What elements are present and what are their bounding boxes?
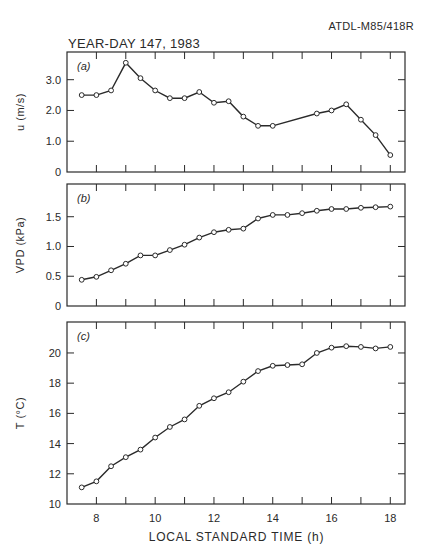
- panel-a: 01.02.03.0u (m/s)(a): [14, 52, 405, 178]
- data-point-marker: [344, 344, 349, 349]
- data-point-marker: [79, 93, 84, 98]
- y-tick-label: 1.0: [46, 135, 61, 147]
- y-tick-label: 1.5: [46, 211, 61, 223]
- data-line: [82, 63, 391, 155]
- data-point-marker: [270, 363, 275, 368]
- data-point-marker: [388, 345, 393, 350]
- plot-frame: [67, 184, 405, 306]
- panel-label: (a): [77, 60, 91, 72]
- data-point-marker: [256, 369, 261, 374]
- data-point-marker: [94, 479, 99, 484]
- data-point-marker: [314, 111, 319, 116]
- data-point-marker: [373, 346, 378, 351]
- data-point-marker: [300, 211, 305, 216]
- y-tick-label: 0: [55, 300, 61, 312]
- data-point-marker: [167, 96, 172, 101]
- data-point-marker: [79, 485, 84, 490]
- data-point-marker: [153, 88, 158, 93]
- data-point-marker: [226, 227, 231, 232]
- data-point-marker: [373, 133, 378, 138]
- data-point-marker: [197, 403, 202, 408]
- y-tick-label: 16: [49, 407, 61, 419]
- data-point-marker: [256, 216, 261, 221]
- data-point-marker: [270, 213, 275, 218]
- panel-label: (c): [77, 330, 90, 342]
- x-tick-label: 18: [384, 512, 396, 524]
- data-point-marker: [388, 153, 393, 158]
- data-point-marker: [285, 363, 290, 368]
- y-tick-label: 10: [49, 498, 61, 510]
- data-point-marker: [109, 88, 114, 93]
- data-point-marker: [300, 362, 305, 367]
- data-point-marker: [212, 100, 217, 105]
- data-point-marker: [167, 248, 172, 253]
- y-tick-label: 18: [49, 377, 61, 389]
- y-tick-label: 14: [49, 438, 61, 450]
- y-tick-label: 3.0: [46, 74, 61, 86]
- y-tick-label: 12: [49, 468, 61, 480]
- data-point-marker: [329, 345, 334, 350]
- data-point-marker: [270, 123, 275, 128]
- panel-label: (b): [77, 192, 91, 204]
- y-axis-label: VPD (kPa): [14, 217, 26, 273]
- chart-area: 01.02.03.0u (m/s)(a)00.51.01.5VPD (kPa)(…: [0, 0, 430, 553]
- y-tick-label: 2.0: [46, 104, 61, 116]
- data-point-marker: [197, 90, 202, 95]
- data-point-marker: [314, 208, 319, 213]
- data-point-marker: [226, 99, 231, 104]
- panel-b: 00.51.01.5VPD (kPa)(b): [14, 184, 405, 312]
- data-point-marker: [359, 345, 364, 350]
- data-point-marker: [226, 390, 231, 395]
- data-point-marker: [388, 204, 393, 209]
- data-point-marker: [359, 205, 364, 210]
- x-tick-label: 16: [325, 512, 337, 524]
- y-axis-label: u (m/s): [14, 93, 26, 131]
- data-point-marker: [241, 379, 246, 384]
- data-point-marker: [197, 235, 202, 240]
- data-point-marker: [153, 253, 158, 258]
- data-point-marker: [344, 102, 349, 107]
- y-tick-label: 1.0: [46, 240, 61, 252]
- data-line: [82, 346, 391, 487]
- data-point-marker: [167, 425, 172, 430]
- data-point-marker: [344, 207, 349, 212]
- y-axis-label: T (°C): [14, 397, 26, 429]
- y-tick-label: 20: [49, 347, 61, 359]
- data-point-marker: [373, 205, 378, 210]
- data-point-marker: [79, 277, 84, 282]
- data-point-marker: [212, 230, 217, 235]
- x-tick-label: 12: [208, 512, 220, 524]
- data-point-marker: [123, 60, 128, 65]
- data-point-marker: [109, 268, 114, 273]
- data-point-marker: [94, 93, 99, 98]
- data-point-marker: [212, 396, 217, 401]
- x-tick-label: 10: [149, 512, 161, 524]
- x-axis-label: LOCAL STANDARD TIME (h): [0, 530, 430, 544]
- data-point-marker: [138, 447, 143, 452]
- data-point-marker: [329, 108, 334, 113]
- data-point-marker: [241, 226, 246, 231]
- data-point-marker: [153, 435, 158, 440]
- data-point-marker: [182, 242, 187, 247]
- data-point-marker: [138, 253, 143, 258]
- data-point-marker: [285, 213, 290, 218]
- data-point-marker: [359, 117, 364, 122]
- data-point-marker: [94, 274, 99, 279]
- data-point-marker: [109, 464, 114, 469]
- y-tick-label: 0.5: [46, 270, 61, 282]
- data-line: [82, 207, 391, 280]
- data-point-marker: [256, 123, 261, 128]
- x-tick-label: 8: [93, 512, 99, 524]
- data-point-marker: [182, 96, 187, 101]
- data-point-marker: [123, 261, 128, 266]
- data-point-marker: [241, 114, 246, 119]
- data-point-marker: [138, 76, 143, 81]
- x-tick-label: 14: [267, 512, 279, 524]
- data-point-marker: [314, 351, 319, 356]
- y-tick-label: 0: [55, 166, 61, 178]
- data-point-marker: [329, 207, 334, 212]
- data-point-marker: [182, 417, 187, 422]
- data-point-marker: [123, 455, 128, 460]
- plot-frame: [67, 322, 405, 504]
- panel-c: 101214161820T (°C)(c): [14, 322, 405, 510]
